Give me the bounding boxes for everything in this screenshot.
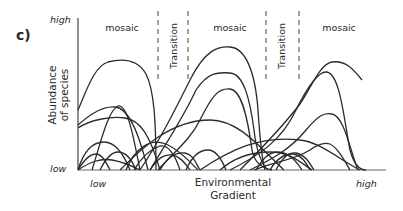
y-axis-low-label: low: [50, 163, 66, 174]
x-axis-title-line1: Environmental: [195, 176, 271, 188]
x-axis-high-label: high: [356, 178, 377, 189]
zone-label-transition-1: Transition: [168, 23, 179, 70]
x-axis-title-line2: Gradient: [210, 189, 256, 201]
y-axis-title-line2: of species: [58, 69, 70, 122]
x-axis-low-label: low: [90, 178, 106, 189]
panel-label: c): [16, 27, 31, 43]
zone-label-mosaic-2: mosaic: [213, 22, 247, 33]
y-axis-title-line1: Abundance: [46, 65, 58, 124]
species-abundance-diagram: c) high low Abundance of species low hig…: [0, 0, 403, 211]
zone-label-transition-2: Transition: [276, 23, 287, 70]
zone-label-mosaic-3: mosaic: [322, 22, 356, 33]
zone-label-mosaic-1: mosaic: [105, 22, 139, 33]
species-curves: [78, 47, 366, 170]
y-axis-high-label: high: [50, 14, 71, 25]
